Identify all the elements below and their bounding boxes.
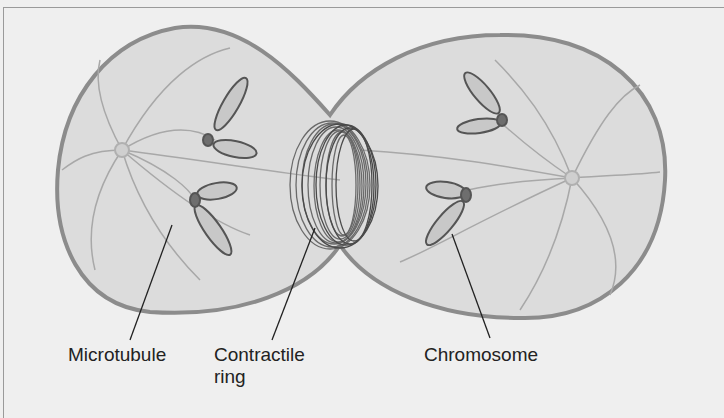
label-chromosome: Chromosome (424, 344, 538, 366)
right-centrosome (565, 171, 579, 185)
label-contractile-ring-line1: Contractile (214, 344, 305, 366)
label-contractile-ring-line2: ring (214, 366, 305, 388)
left-centrosome (115, 143, 129, 157)
label-microtubule: Microtubule (68, 344, 166, 366)
label-contractile-ring: Contractile ring (214, 344, 305, 388)
